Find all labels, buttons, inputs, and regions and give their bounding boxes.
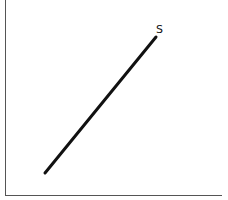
supply-curve-label: S — [156, 24, 163, 35]
supply-curve — [45, 37, 156, 173]
diagram-canvas — [0, 0, 228, 200]
